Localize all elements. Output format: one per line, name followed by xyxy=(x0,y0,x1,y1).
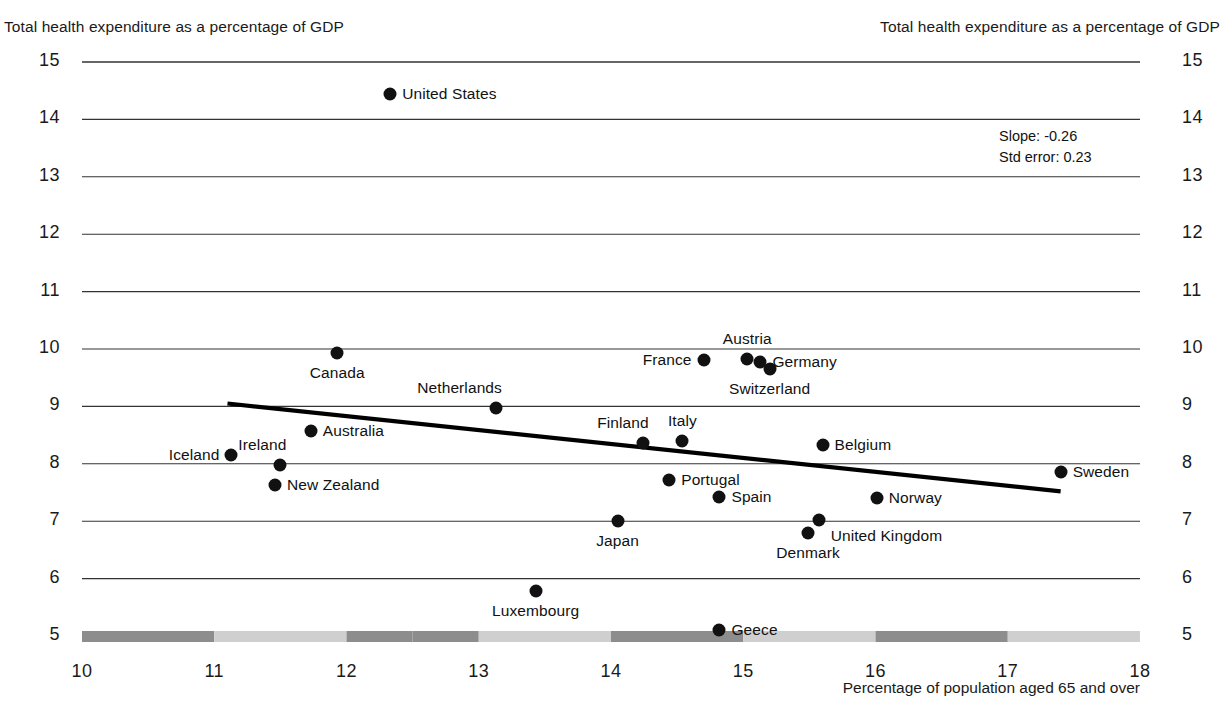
data-point[interactable] xyxy=(763,363,776,376)
data-point-label: Belgium xyxy=(835,436,892,454)
data-point[interactable] xyxy=(663,473,676,486)
y-axis-tick-label-left: 7 xyxy=(26,509,60,530)
x-axis-tick-label: 11 xyxy=(194,661,234,682)
x-axis-tick-label: 12 xyxy=(327,661,367,682)
data-point[interactable] xyxy=(611,515,624,528)
plot-canvas xyxy=(0,0,1226,721)
y-axis-tick-label-right: 14 xyxy=(1182,107,1216,128)
data-point-label: Geece xyxy=(731,621,777,639)
y-axis-tick-label-left: 6 xyxy=(26,567,60,588)
data-point[interactable] xyxy=(1054,465,1067,478)
data-point-label: Canada xyxy=(310,364,365,382)
x-axis-band xyxy=(214,631,346,642)
y-axis-tick-label-right: 8 xyxy=(1182,452,1216,473)
y-axis-tick-label-right: 9 xyxy=(1182,394,1216,415)
data-point-label: Switzerland xyxy=(729,380,810,398)
data-point-label: Sweden xyxy=(1073,463,1130,481)
y-axis-tick-label-right: 6 xyxy=(1182,567,1216,588)
slope-value: Slope: -0.26 xyxy=(999,126,1092,147)
scatter-chart: Total health expenditure as a percentage… xyxy=(0,0,1226,721)
data-point[interactable] xyxy=(225,449,238,462)
data-point-label: Netherlands xyxy=(417,379,502,397)
y-axis-tick-label-left: 13 xyxy=(26,165,60,186)
y-axis-tick-label-left: 8 xyxy=(26,452,60,473)
right-axis-title: Total health expenditure as a percentage… xyxy=(880,18,1220,36)
x-axis-title: Percentage of population aged 65 and ove… xyxy=(843,679,1140,697)
data-point-label: Denmark xyxy=(776,544,840,562)
y-axis-tick-label-left: 15 xyxy=(26,50,60,71)
data-point-label: Italy xyxy=(668,412,697,430)
x-axis-band xyxy=(347,631,413,642)
data-point[interactable] xyxy=(384,87,397,100)
data-point[interactable] xyxy=(304,425,317,438)
data-point[interactable] xyxy=(529,585,542,598)
y-axis-tick-label-left: 5 xyxy=(26,624,60,645)
std-error-value: Std error: 0.23 xyxy=(999,147,1092,168)
x-axis-band xyxy=(1008,631,1140,642)
data-point-label: United Kingdom xyxy=(831,527,943,545)
data-point-label: Ireland xyxy=(238,436,286,454)
data-point[interactable] xyxy=(816,438,829,451)
data-point[interactable] xyxy=(713,624,726,637)
data-point[interactable] xyxy=(331,347,344,360)
data-point[interactable] xyxy=(713,490,726,503)
y-axis-tick-label-right: 5 xyxy=(1182,624,1216,645)
data-point-label: Austria xyxy=(723,330,772,348)
data-point[interactable] xyxy=(676,434,689,447)
data-point[interactable] xyxy=(636,436,649,449)
data-point-label: Luxembourg xyxy=(492,602,579,620)
y-axis-tick-label-left: 9 xyxy=(26,394,60,415)
y-axis-tick-label-right: 11 xyxy=(1182,280,1216,301)
y-axis-tick-label-left: 11 xyxy=(26,280,60,301)
data-point[interactable] xyxy=(274,458,287,471)
y-axis-tick-label-left: 14 xyxy=(26,107,60,128)
y-axis-tick-label-right: 15 xyxy=(1182,50,1216,71)
data-point-label: United States xyxy=(402,85,496,103)
y-axis-tick-label-right: 13 xyxy=(1182,165,1216,186)
x-axis-band xyxy=(479,631,611,642)
data-point-label: Portugal xyxy=(681,471,740,489)
data-point[interactable] xyxy=(812,514,825,527)
data-point-label: Finland xyxy=(597,414,649,432)
x-axis-tick-label: 13 xyxy=(459,661,499,682)
y-axis-tick-label-right: 7 xyxy=(1182,509,1216,530)
left-axis-title: Total health expenditure as a percentage… xyxy=(4,18,344,36)
x-axis-tick-label: 15 xyxy=(723,661,763,682)
data-point[interactable] xyxy=(697,353,710,366)
x-axis-tick-label: 10 xyxy=(62,661,102,682)
data-point-label: Norway xyxy=(889,489,942,507)
x-axis-band xyxy=(876,631,1008,642)
data-point-label: Germany xyxy=(772,353,836,371)
y-axis-tick-label-left: 10 xyxy=(26,337,60,358)
gridlines xyxy=(82,62,1140,579)
data-point-label: Spain xyxy=(731,488,771,506)
data-point[interactable] xyxy=(269,479,282,492)
data-point-label: Japan xyxy=(596,532,639,550)
data-point-label: Australia xyxy=(323,422,384,440)
data-point[interactable] xyxy=(489,402,502,415)
regression-annotation: Slope: -0.26 Std error: 0.23 xyxy=(999,126,1092,167)
x-axis-shade-bands xyxy=(82,631,1140,642)
x-axis-tick-label: 14 xyxy=(591,661,631,682)
data-point[interactable] xyxy=(870,492,883,505)
y-axis-tick-label-right: 10 xyxy=(1182,337,1216,358)
x-axis-band xyxy=(413,631,479,642)
data-point[interactable] xyxy=(802,526,815,539)
y-axis-tick-label-right: 12 xyxy=(1182,222,1216,243)
x-axis-band xyxy=(82,631,214,642)
data-point[interactable] xyxy=(741,353,754,366)
data-point-label: New Zealand xyxy=(287,476,379,494)
data-point-label: Iceland xyxy=(169,446,220,464)
data-point-label: France xyxy=(643,351,692,369)
y-axis-tick-label-left: 12 xyxy=(26,222,60,243)
